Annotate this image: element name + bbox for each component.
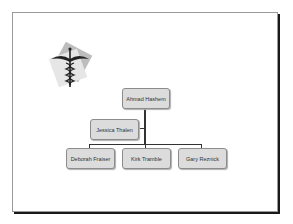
node-label: Deborah Fraiser xyxy=(71,156,111,162)
node-label: Ahmad Hashem xyxy=(126,96,165,102)
connector-assistant xyxy=(138,128,145,129)
node-label: Gary Reznick xyxy=(186,156,219,162)
org-node-kirk-tramble[interactable]: Kirk Tramble xyxy=(122,148,171,169)
org-node-gary-reznick[interactable]: Gary Reznick xyxy=(178,148,227,169)
caduceus-logo xyxy=(43,41,97,93)
connector-root-vertical xyxy=(144,107,146,145)
node-label: Kirk Tramble xyxy=(131,156,162,162)
org-node-deborah-fraiser[interactable]: Deborah Fraiser xyxy=(66,148,115,169)
node-label: Jessica Thalen xyxy=(96,127,133,133)
org-node-ahmad-hashem[interactable]: Ahmad Hashem xyxy=(122,88,170,109)
caduceus-icon xyxy=(43,41,97,93)
org-node-jessica-thalen[interactable]: Jessica Thalen xyxy=(90,119,139,140)
